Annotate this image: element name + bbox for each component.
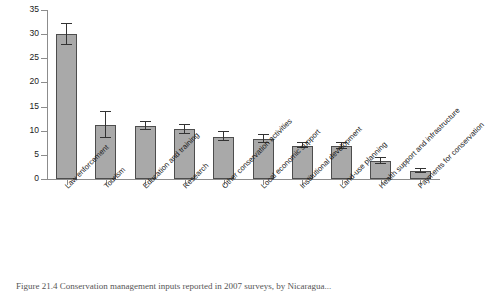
y-axis-tick [41,82,47,83]
y-axis-line [47,10,48,180]
error-bar-cap-lower [179,133,190,134]
error-bar-cap-lower [61,44,72,45]
y-axis-tick-label-text: 0 [34,173,39,183]
y-axis-tick-label-text: 25 [30,52,39,62]
error-bar-cap-upper [415,168,426,169]
error-bar-cap-lower [218,140,229,141]
y-axis-tick-label-text: 5 [34,149,39,159]
y-axis-tick-label-text: 10 [30,125,39,135]
y-axis-tick-label-text: 20 [30,76,39,86]
bar [56,34,77,179]
error-bar-cap-upper [140,121,151,122]
y-axis-tick [41,10,47,11]
error-bar [66,24,67,45]
error-bar-cap-upper [100,111,111,112]
y-axis-tick [41,155,47,156]
error-bar-cap-lower [140,129,151,130]
error-bar-cap-upper [179,124,190,125]
plot-area: 05101520253035 [47,10,440,180]
error-bar-cap-lower [415,172,426,173]
y-axis-tick-label-text: 35 [30,4,39,14]
error-bar-cap-upper [218,131,229,132]
y-axis-tick [41,34,47,35]
error-bar [105,112,106,138]
y-axis-tick-label-text: 15 [30,101,39,111]
error-bar-cap-lower [100,137,111,138]
y-axis-tick [41,131,47,132]
y-axis-tick [41,107,47,108]
y-axis-tick [41,179,47,180]
y-axis-tick-label-text: 30 [30,28,39,38]
error-bar-cap-lower [375,163,386,164]
figure-caption: Figure 21.4 Conservation management inpu… [16,281,446,291]
y-axis-tick [41,58,47,59]
error-bar-cap-upper [61,23,72,24]
error-bar-cap-upper [258,134,269,135]
